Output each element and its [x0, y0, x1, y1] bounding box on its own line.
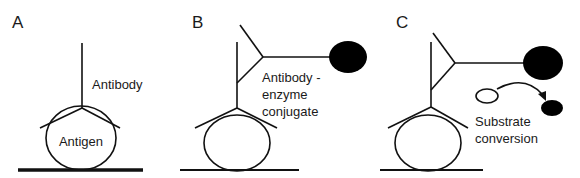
enzyme — [329, 41, 367, 73]
arrowhead-icon — [538, 91, 546, 101]
substrate — [476, 89, 498, 103]
panel-a: A Antibody Antigen — [12, 13, 143, 170]
panel-b: B Antibody - enzyme conjugate — [180, 13, 367, 171]
panel-label-a: A — [12, 13, 24, 32]
substrate-label-line2: conversion — [475, 131, 538, 146]
conjugate-label-line1: Antibody - — [262, 70, 321, 85]
elisa-diagram: A Antibody Antigen B Antibody - enzyme c… — [0, 0, 580, 178]
substrate-label-line1: Substrate — [475, 114, 531, 129]
conjugate-label-line3: conjugate — [262, 104, 318, 119]
antigen — [395, 115, 461, 171]
conjugate-arm-lower — [237, 57, 263, 83]
panel-c: C Substrate conversion — [380, 13, 563, 171]
conjugate-arm-upper — [240, 25, 263, 57]
conjugate-arm-upper — [433, 33, 455, 63]
panel-label-b: B — [192, 13, 203, 32]
product — [541, 100, 563, 116]
antibody-arm-right — [431, 107, 468, 128]
conversion-arrow — [497, 83, 543, 95]
antigen-label: Antigen — [59, 134, 103, 149]
panel-label-c: C — [396, 13, 408, 32]
enzyme — [523, 46, 563, 80]
antigen — [204, 115, 270, 171]
antibody-label: Antibody — [92, 77, 143, 92]
antibody-arm-left — [195, 108, 237, 128]
conjugate-label-line2: enzyme — [262, 87, 308, 102]
conjugate-arm-lower — [431, 63, 455, 90]
antibody-arm-left — [388, 107, 431, 128]
